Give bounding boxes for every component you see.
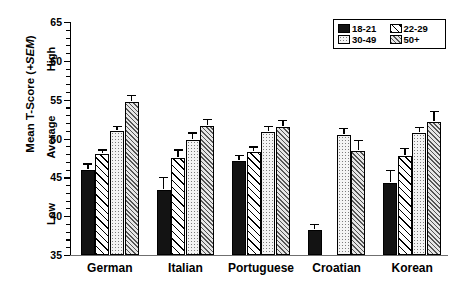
dense-hatch-swatch-icon xyxy=(390,35,402,44)
error-bar-stem xyxy=(404,149,405,154)
y-tick-minor xyxy=(66,38,70,39)
y-tick-minor xyxy=(66,224,70,225)
legend-label-1: 22-29 xyxy=(404,24,428,34)
error-bar-cap xyxy=(188,132,197,133)
x-axis-line xyxy=(70,255,448,256)
error-bar-stem xyxy=(116,127,117,129)
y-tick-label: 40 xyxy=(50,210,62,222)
bar[interactable] xyxy=(412,133,426,255)
legend-item-18-21[interactable]: 18-21 xyxy=(338,24,390,34)
error-bar-cap xyxy=(415,127,424,128)
error-bar-cap xyxy=(354,140,363,141)
bar[interactable] xyxy=(427,122,441,255)
bar[interactable] xyxy=(157,190,171,255)
error-bar-cap xyxy=(113,126,122,127)
bar[interactable] xyxy=(95,154,109,255)
bar[interactable] xyxy=(337,135,351,255)
legend-label-0: 18-21 xyxy=(352,24,376,34)
y-tick-major xyxy=(64,22,70,23)
legend-label-3: 50+ xyxy=(404,35,420,45)
y-tick-label: 35 xyxy=(50,249,62,261)
y-tick-minor xyxy=(66,115,70,116)
y-tick-major xyxy=(64,255,70,256)
error-bar-stem xyxy=(268,127,269,131)
error-bar-stem xyxy=(282,121,283,126)
error-bar-cap xyxy=(83,163,92,164)
legend-item-50-plus[interactable]: 50+ xyxy=(390,35,442,45)
bar[interactable] xyxy=(171,158,185,255)
y-tick-minor xyxy=(66,123,70,124)
y-tick-label: 60 xyxy=(50,55,62,67)
y-tick-major xyxy=(64,177,70,178)
legend-row: 30-49 50+ xyxy=(338,35,441,45)
y-axis-line xyxy=(70,22,71,255)
y-axis-title-italic: +SEM xyxy=(24,39,36,71)
y-tick-minor xyxy=(66,76,70,77)
error-bar-cap xyxy=(235,155,244,156)
y-tick-minor xyxy=(66,30,70,31)
error-bar-stem xyxy=(207,120,208,125)
bar[interactable] xyxy=(398,156,412,255)
bar-group xyxy=(232,22,290,255)
error-bar-stem xyxy=(177,151,178,157)
y-tick-major xyxy=(64,216,70,217)
y-tick-minor xyxy=(66,170,70,171)
y-tick-minor xyxy=(66,92,70,93)
error-bar-cap xyxy=(127,95,136,96)
bar-group xyxy=(81,22,139,255)
y-tick-minor xyxy=(66,247,70,248)
y-tick-minor xyxy=(66,208,70,209)
solid-black-swatch-icon xyxy=(338,24,350,33)
bar-chart: Mean T-Score (+SEM) Low Average High 354… xyxy=(0,0,459,295)
y-tick-minor xyxy=(66,53,70,54)
bar[interactable] xyxy=(232,161,246,255)
y-tick-minor xyxy=(66,146,70,147)
y-tick-label: 50 xyxy=(50,133,62,145)
x-axis-label: Korean xyxy=(392,261,433,275)
y-tick-minor xyxy=(66,185,70,186)
error-bar-cap xyxy=(203,119,212,120)
error-bar-stem xyxy=(87,165,88,169)
error-bar-stem xyxy=(433,112,434,121)
y-axis-title: Mean T-Score (+SEM) xyxy=(24,4,36,184)
bar[interactable] xyxy=(261,132,275,255)
legend-label-2: 30-49 xyxy=(352,35,376,45)
y-tick-minor xyxy=(66,45,70,46)
y-tick-minor xyxy=(66,84,70,85)
bar[interactable] xyxy=(383,183,397,255)
bar[interactable] xyxy=(125,102,139,255)
error-bar-cap xyxy=(174,149,183,150)
error-bar-cap xyxy=(400,148,409,149)
error-bar-cap xyxy=(339,128,348,129)
y-tick-label: 55 xyxy=(50,94,62,106)
error-bar-stem xyxy=(102,151,103,153)
error-bar-stem xyxy=(343,129,344,134)
y-axis-title-tail: ) xyxy=(24,35,36,39)
y-tick-label: 45 xyxy=(50,171,62,183)
error-bar-stem xyxy=(419,128,420,132)
y-tick-minor xyxy=(66,107,70,108)
error-bar-stem xyxy=(253,148,254,151)
bar[interactable] xyxy=(308,230,322,255)
bar[interactable] xyxy=(276,127,290,255)
legend-item-30-49[interactable]: 30-49 xyxy=(338,35,390,45)
error-bar-stem xyxy=(358,141,359,150)
y-tick-minor xyxy=(66,69,70,70)
error-bar-stem xyxy=(238,156,239,160)
bar[interactable] xyxy=(200,126,214,255)
error-bar-cap xyxy=(386,170,395,171)
y-tick-minor xyxy=(66,201,70,202)
bar[interactable] xyxy=(110,131,124,255)
bar[interactable] xyxy=(81,170,95,255)
error-bar-cap xyxy=(264,126,273,127)
bar[interactable] xyxy=(351,151,365,255)
plot-area: 35404550556065 GermanItalianPortugueseCr… xyxy=(70,22,448,255)
error-bar-stem xyxy=(390,171,391,182)
legend-item-22-29[interactable]: 22-29 xyxy=(390,24,442,34)
bar[interactable] xyxy=(247,152,261,255)
bar-group xyxy=(308,22,366,255)
x-axis-label: Italian xyxy=(168,261,203,275)
y-tick-minor xyxy=(66,239,70,240)
bar[interactable] xyxy=(186,140,200,255)
diagonal-lines-swatch-icon xyxy=(390,24,402,33)
